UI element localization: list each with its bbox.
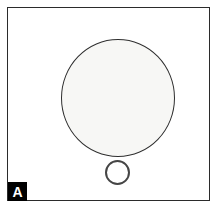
panel-label: A xyxy=(8,182,27,201)
large-circle-shape xyxy=(61,39,175,157)
panel-frame xyxy=(7,7,210,201)
small-ring-shape xyxy=(105,160,130,185)
figure-panel: A xyxy=(0,0,218,211)
